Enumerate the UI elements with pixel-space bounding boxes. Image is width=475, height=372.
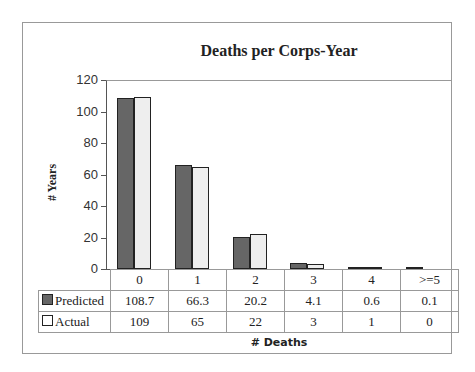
value-cell: 65 — [169, 312, 227, 333]
value-cell: 66.3 — [169, 291, 227, 312]
x-axis-label: # Deaths — [106, 336, 452, 349]
value-cell: 0.6 — [343, 291, 401, 312]
category-cell: >=5 — [401, 270, 459, 291]
y-tick-label: 20 — [60, 230, 98, 245]
category-cell: 4 — [343, 270, 401, 291]
y-axis-label: # Years — [45, 153, 60, 213]
predicted-row: Predicted 108.7 66.3 20.2 4.1 0.6 0.1 — [39, 291, 459, 312]
value-cell: 22 — [227, 312, 285, 333]
value-cell: 0 — [401, 312, 459, 333]
actual-row: Actual 109 65 22 3 1 0 — [39, 312, 459, 333]
category-cell: 3 — [285, 270, 343, 291]
data-table: 0 1 2 3 4 >=5 Predicted 108.7 66.3 20.2 … — [38, 269, 459, 333]
category-cell: 1 — [169, 270, 227, 291]
value-cell: 108.7 — [111, 291, 169, 312]
bar-actual — [192, 167, 209, 269]
value-cell: 3 — [285, 312, 343, 333]
y-tick-label: 120 — [60, 72, 98, 87]
value-cell: 109 — [111, 312, 169, 333]
predicted-swatch-icon — [42, 294, 53, 305]
bar-actual — [250, 234, 267, 269]
legend-actual: Actual — [39, 312, 111, 333]
y-tick-label: 60 — [60, 167, 98, 182]
category-row: 0 1 2 3 4 >=5 — [39, 270, 459, 291]
chart-title: Deaths per Corps-Year — [106, 42, 452, 60]
bar-predicted — [233, 237, 250, 269]
value-cell: 1 — [343, 312, 401, 333]
category-cell: 0 — [111, 270, 169, 291]
y-tick-label: 40 — [60, 198, 98, 213]
legend-predicted: Predicted — [39, 291, 111, 312]
plot-area — [106, 80, 452, 269]
category-cell: 2 — [227, 270, 285, 291]
bar-actual — [134, 97, 151, 269]
bar-predicted — [117, 98, 134, 269]
value-cell: 4.1 — [285, 291, 343, 312]
value-cell: 20.2 — [227, 291, 285, 312]
bar-predicted — [175, 165, 192, 269]
y-tick-label: 100 — [60, 104, 98, 119]
plot-border-right — [451, 80, 452, 269]
y-tick-label: 80 — [60, 135, 98, 150]
value-cell: 0.1 — [401, 291, 459, 312]
actual-swatch-icon — [42, 315, 53, 326]
